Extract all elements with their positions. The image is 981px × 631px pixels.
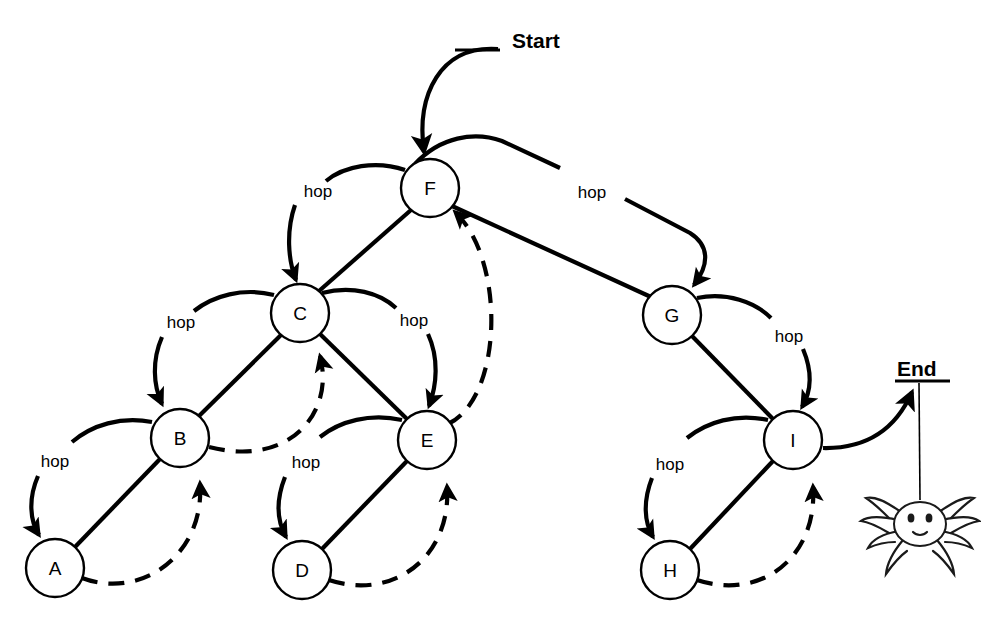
tree-edge-C-B — [199, 335, 281, 416]
spider-icon — [861, 383, 979, 574]
hop-arc-B-A-tail — [31, 476, 39, 535]
spider-leg-l3 — [868, 531, 899, 548]
hop-arc-C-E — [322, 290, 396, 308]
node-C-label: C — [293, 303, 307, 324]
hop-label-C-E: hop — [400, 311, 428, 330]
tree-edge-C-E — [320, 334, 407, 419]
hop-arc-F-C — [326, 165, 405, 181]
hop-arc-G-I-tail — [802, 349, 810, 407]
hop-label-C-B: hop — [167, 313, 195, 332]
hop-label-F-C: hop — [304, 182, 332, 201]
hop-arc-F-C-tail — [289, 205, 296, 280]
node-G-label: G — [665, 305, 680, 326]
spider-leg-l4 — [886, 540, 907, 574]
spider-leg-l2 — [861, 517, 898, 533]
node-E-label: E — [421, 430, 434, 451]
node-B[interactable]: B — [151, 409, 209, 467]
node-D-label: D — [295, 560, 309, 581]
end-label: End — [897, 357, 937, 380]
tree-edge-E-D — [322, 461, 407, 549]
hop-label-F-G: hop — [578, 183, 606, 202]
hop-arc-E-D — [320, 417, 402, 437]
tree-edge-F-C — [319, 210, 411, 291]
hop-label-B-A: hop — [41, 452, 69, 471]
node-B-label: B — [174, 428, 187, 449]
node-F-label: F — [424, 178, 436, 199]
hop-arc-C-E-tail — [428, 334, 436, 406]
hop-label-G-I: hop — [775, 327, 803, 346]
back-edge-A-B — [82, 483, 200, 584]
back-edge-H-I — [697, 486, 813, 585]
hop-arc-C-B-tail — [155, 337, 162, 404]
tree-edge-B-A — [75, 459, 160, 547]
spider-eye-left — [908, 513, 915, 522]
traversal-diagram: A B C D E F G — [0, 0, 981, 631]
spider-thread — [919, 383, 920, 500]
end-terminal-group: End — [823, 357, 950, 449]
tree-edges-group — [75, 206, 773, 549]
node-C[interactable]: C — [271, 284, 329, 342]
hop-arc-C-B — [194, 292, 274, 311]
spider-leg-r2 — [942, 517, 979, 533]
start-label: Start — [512, 29, 560, 52]
graph-canvas: A B C D E F G — [0, 0, 981, 631]
node-D[interactable]: D — [273, 541, 331, 599]
tree-edge-I-H — [690, 461, 773, 549]
node-I-label: I — [790, 430, 795, 451]
hop-arc-E-D-tail — [279, 477, 286, 537]
hop-label-E-D: hop — [292, 453, 320, 472]
hop-label-I-H: hop — [656, 455, 684, 474]
tree-edge-G-I — [692, 336, 773, 419]
tree-edge-F-G — [452, 206, 651, 297]
node-F[interactable]: F — [401, 159, 459, 217]
end-arrow — [823, 392, 912, 448]
hop-arc-I-H — [687, 418, 768, 438]
spider-eye-right — [926, 513, 933, 522]
node-H-label: H — [663, 560, 677, 581]
back-edge-E-F — [448, 212, 491, 424]
node-H[interactable]: H — [641, 541, 699, 599]
hop-arc-I-H-tail — [646, 478, 653, 537]
hop-arc-G-I — [697, 296, 771, 318]
hop-arc-B-A — [72, 420, 152, 442]
node-I[interactable]: I — [764, 411, 822, 469]
hop-arc-F-G-tail — [625, 199, 705, 285]
node-A[interactable]: A — [26, 539, 84, 597]
spider-leg-r4 — [933, 540, 954, 574]
back-edge-B-C — [209, 356, 323, 452]
spider-leg-r3 — [941, 531, 972, 548]
back-edge-D-E — [329, 486, 447, 585]
node-G[interactable]: G — [643, 286, 701, 344]
spider-body — [894, 502, 946, 546]
node-A-label: A — [49, 558, 62, 579]
start-terminal-group: Start — [423, 29, 560, 153]
node-E[interactable]: E — [398, 411, 456, 469]
